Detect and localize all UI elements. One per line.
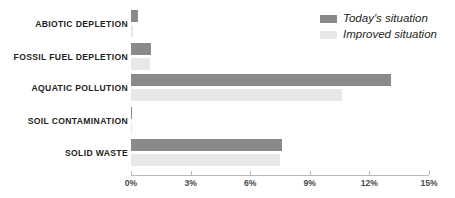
category-group: AQUATIC POLLUTION xyxy=(0,74,455,101)
plot-area: ABIOTIC DEPLETIONFOSSIL FUEL DEPLETIONAQ… xyxy=(0,0,455,198)
x-axis-tick-mark xyxy=(429,171,430,175)
category-group: SOIL CONTAMINATION xyxy=(0,107,455,134)
x-axis-tick-label: 3% xyxy=(184,178,196,188)
category-label: FOSSIL FUEL DEPLETION xyxy=(6,52,128,62)
category-label: AQUATIC POLLUTION xyxy=(6,83,128,93)
bar-improved-situation xyxy=(131,154,280,166)
category-label: ABIOTIC DEPLETION xyxy=(6,19,128,29)
x-axis-tick-mark xyxy=(369,171,370,175)
bar-todays-situation xyxy=(131,43,151,55)
bar-improved-situation xyxy=(131,58,150,70)
bar-improved-situation xyxy=(131,25,133,37)
x-axis-tick-label: 15% xyxy=(420,178,437,188)
bar-todays-situation xyxy=(131,139,282,151)
bar-todays-situation xyxy=(131,74,391,86)
x-axis-line xyxy=(131,175,429,176)
category-group: SOLID WASTE xyxy=(0,139,455,166)
category-label: SOLID WASTE xyxy=(6,148,128,158)
bar-chart: Today's situation Improved situation ABI… xyxy=(0,0,455,198)
x-axis-tick-mark xyxy=(131,171,132,175)
bar-improved-situation xyxy=(131,122,132,134)
category-label: SOIL CONTAMINATION xyxy=(6,116,128,126)
x-axis-tick-label: 0% xyxy=(125,178,137,188)
x-axis-tick-label: 6% xyxy=(244,178,256,188)
x-axis-tick-mark xyxy=(191,171,192,175)
category-group: FOSSIL FUEL DEPLETION xyxy=(0,43,455,70)
category-group: ABIOTIC DEPLETION xyxy=(0,10,455,37)
x-axis-tick-mark xyxy=(250,171,251,175)
bar-todays-situation xyxy=(131,107,132,119)
bar-todays-situation xyxy=(131,10,138,22)
bar-improved-situation xyxy=(131,89,342,101)
x-axis-tick-label: 9% xyxy=(304,178,316,188)
x-axis-tick-mark xyxy=(310,171,311,175)
x-axis-tick-label: 12% xyxy=(361,178,378,188)
